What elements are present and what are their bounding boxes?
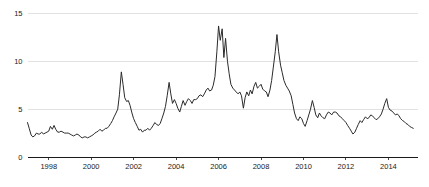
x-tick-label-2014: 2014: [380, 162, 397, 171]
x-tick-label-2006: 2006: [210, 162, 227, 171]
data-series: [28, 26, 414, 138]
line-chart: 051015 199820002002200420062008201020122…: [0, 0, 429, 187]
y-tick-label-10: 10: [14, 57, 22, 66]
y-tick-label-15: 15: [14, 9, 22, 18]
x-tick-label-2010: 2010: [295, 162, 312, 171]
x-tick-label-2012: 2012: [338, 162, 355, 171]
chart-plot-area: 051015 199820002002200420062008201020122…: [0, 0, 429, 187]
y-axis-tick-labels: 051015: [14, 9, 22, 162]
x-tick-label-2002: 2002: [125, 162, 142, 171]
series-line-1: [28, 26, 414, 138]
x-tick-label-2000: 2000: [83, 162, 100, 171]
x-tick-label-2008: 2008: [253, 162, 270, 171]
gridlines: [28, 14, 419, 110]
x-tick-label-1998: 1998: [40, 162, 57, 171]
x-tick-label-2004: 2004: [168, 162, 185, 171]
y-tick-label-0: 0: [18, 153, 22, 162]
x-axis-tick-labels: 199820002002200420062008201020122014: [40, 162, 396, 171]
y-tick-label-5: 5: [18, 105, 22, 114]
